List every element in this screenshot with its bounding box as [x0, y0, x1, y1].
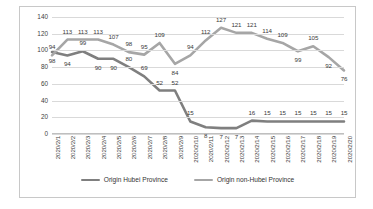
- x-axis-tick-label: 2020/2/14: [254, 136, 260, 163]
- data-point-label: 84: [172, 70, 179, 76]
- data-point-label: 15: [295, 110, 302, 116]
- data-point-label: 94: [64, 61, 71, 67]
- x-axis-tick-label: 2020/2/13: [239, 136, 245, 163]
- y-axis-tick-label: 80: [41, 64, 48, 70]
- legend-item[interactable]: Origin non-Hubei Province: [194, 177, 294, 184]
- x-axis-tick-label: 2020/2/12: [224, 136, 230, 163]
- data-point-label: 52: [172, 79, 179, 85]
- data-point-label: 15: [187, 110, 194, 116]
- legend-line-icon: [194, 179, 213, 181]
- data-point-label: 15: [325, 110, 332, 116]
- data-point-label: 113: [93, 28, 103, 34]
- data-point-label: 94: [187, 44, 194, 50]
- data-point-label: 98: [125, 41, 132, 47]
- x-axis-tick-label: 2020/2/17: [300, 136, 306, 163]
- data-point-label: 15: [310, 110, 317, 116]
- data-point-label: 109: [278, 32, 288, 38]
- x-axis-tick-label: 2020/2/3: [85, 136, 91, 159]
- x-axis-tick-label: 2020/2/7: [147, 136, 153, 159]
- y-axis-tick-label: 140: [37, 14, 48, 20]
- data-point-label: 90: [95, 65, 102, 71]
- gridline: [52, 17, 344, 18]
- chart-legend: Origin Hubei ProvinceOrigin non-Hubei Pr…: [20, 177, 355, 184]
- data-point-label: 15: [341, 110, 348, 116]
- y-axis-tick-label: 100: [37, 47, 48, 53]
- data-point-label: 52: [156, 79, 163, 85]
- data-point-label: 92: [325, 63, 332, 69]
- data-point-label: 95: [141, 43, 148, 49]
- y-axis-tick-label: 120: [37, 31, 48, 37]
- data-point-label: 98: [49, 58, 56, 64]
- data-point-label: 127: [216, 17, 226, 23]
- data-point-label: 76: [341, 76, 348, 82]
- data-point-label: 15: [279, 110, 286, 116]
- x-axis-tick-label: 2020/2/10: [193, 136, 199, 163]
- data-point-label: 16: [248, 110, 255, 116]
- data-point-label: 107: [108, 33, 118, 39]
- x-axis-tick-label: 2020/2/15: [270, 136, 276, 163]
- data-point-label: 112: [201, 29, 211, 35]
- legend-item[interactable]: Origin Hubei Province: [81, 177, 168, 184]
- x-axis-tick-label: 2020/2/1: [55, 136, 61, 159]
- data-point-label: 121: [231, 22, 241, 28]
- gridline: [52, 50, 344, 51]
- legend-label: Origin non-Hubei Province: [217, 177, 294, 184]
- x-axis-tick-label: 2020/2/11: [208, 136, 214, 162]
- x-axis-tick-label: 2020/2/9: [178, 136, 184, 159]
- data-point-label: 99: [295, 57, 302, 63]
- data-point-label: 99: [79, 40, 86, 46]
- plot-area: 9894999090806952521587716151515151515941…: [52, 17, 344, 134]
- gridline: [52, 101, 344, 102]
- data-point-label: 121: [247, 22, 257, 28]
- data-point-label: 15: [264, 110, 271, 116]
- legend-label: Origin Hubei Province: [104, 177, 168, 184]
- chart-container: 020406080100120140 989499909080695252158…: [19, 6, 356, 198]
- x-axis-tick-label: 2020/2/16: [285, 136, 291, 163]
- gridline: [52, 117, 344, 118]
- x-axis-tick-label: 2020/2/8: [162, 136, 168, 159]
- data-point-label: 105: [308, 35, 318, 41]
- data-point-label: 114: [262, 28, 272, 34]
- x-axis-tick-label: 2020/2/19: [331, 136, 337, 163]
- data-point-label: 80: [125, 56, 132, 62]
- data-point-label: 69: [141, 65, 148, 71]
- data-point-label: 94: [49, 44, 56, 50]
- x-axis-tick-label: 2020/2/20: [347, 136, 353, 163]
- x-axis-tick-label: 2020/2/18: [316, 136, 322, 163]
- data-point-label: 113: [63, 28, 73, 34]
- x-axis-tick-label: 2020/2/6: [131, 136, 137, 159]
- y-axis-tick-label: 40: [41, 97, 48, 103]
- data-point-label: 90: [110, 65, 117, 71]
- x-axis-labels: 2020/2/12020/2/22020/2/32020/2/42020/2/5…: [52, 136, 344, 180]
- y-axis-tick-label: 0: [44, 131, 48, 137]
- gridline: [52, 84, 344, 85]
- x-axis-tick-label: 2020/2/2: [70, 136, 76, 159]
- data-point-label: 113: [78, 28, 88, 34]
- legend-line-icon: [81, 179, 100, 181]
- x-axis-tick-label: 2020/2/5: [116, 136, 122, 159]
- y-axis-tick-label: 60: [41, 81, 48, 87]
- x-axis-tick-label: 2020/2/4: [101, 136, 107, 159]
- data-point-label: 109: [155, 32, 165, 38]
- x-axis-line: [52, 133, 344, 134]
- y-axis-tick-label: 20: [41, 114, 48, 120]
